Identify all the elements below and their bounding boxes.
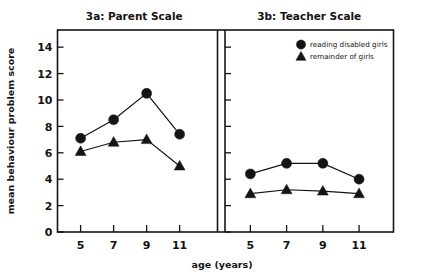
x-tick-label: 9 [143,239,151,252]
data-point-triangle[interactable] [317,185,328,195]
y-axis-title: mean behaviour problem score [5,48,16,215]
figure-container: 3a: Parent Scale02468101214579113b: Teac… [0,0,427,277]
data-point-triangle[interactable] [141,134,152,144]
series-line-triangle [250,190,359,194]
panel-title-1: 3a: Parent Scale [86,10,183,22]
y-tick-label: 6 [45,147,53,160]
panel-parent-scale: 3a: Parent Scale0246810121457911 [37,10,187,252]
x-tick-label: 7 [110,239,118,252]
legend-label: remainder of girls [310,52,374,61]
data-point-circle[interactable] [142,88,152,98]
y-tick-label: 14 [37,41,53,54]
y-tick-label: 12 [37,68,52,81]
x-tick-label: 5 [77,239,85,252]
y-tick-label: 2 [45,200,53,213]
legend-triangle-marker [296,51,306,60]
y-tick-label: 0 [45,226,53,239]
legend-circle-marker [296,40,305,49]
data-point-circle[interactable] [354,174,364,184]
x-tick-label: 11 [172,239,187,252]
y-tick-label: 10 [37,94,53,107]
y-tick-label: 4 [45,173,53,186]
data-point-circle[interactable] [109,115,119,125]
series-line-circle [250,163,359,179]
data-point-circle[interactable] [245,169,255,179]
data-point-circle[interactable] [175,129,185,139]
data-point-triangle[interactable] [281,184,292,194]
x-tick-label: 9 [319,239,327,252]
series-line-circle [81,93,180,138]
data-point-circle[interactable] [76,133,86,143]
x-tick-label: 7 [283,239,291,252]
x-axis-title: age (years) [191,259,252,270]
data-point-circle[interactable] [282,158,292,168]
legend-label: reading disabled girls [310,40,388,49]
series-line-triangle [81,140,180,166]
x-tick-label: 11 [351,239,366,252]
panel-title-2: 3b: Teacher Scale [257,10,361,22]
y-tick-label: 8 [45,121,53,134]
chart-canvas: 3a: Parent Scale02468101214579113b: Teac… [0,0,427,277]
x-tick-label: 5 [247,239,255,252]
data-point-circle[interactable] [318,158,328,168]
legend: reading disabled girlsremainder of girls [296,40,388,61]
data-point-triangle[interactable] [174,160,185,170]
